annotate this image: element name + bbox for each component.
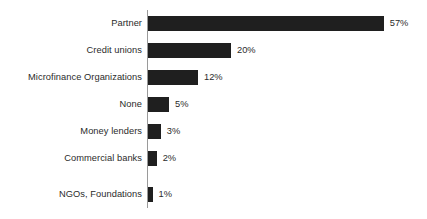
bar-row: None 5%: [0, 96, 427, 112]
bar[interactable]: [148, 151, 156, 166]
bar-value-label: 5%: [175, 99, 188, 110]
bar-row: Commercial banks 2%: [0, 150, 427, 166]
bar-row: Credit unions 20%: [0, 42, 427, 58]
category-label: Partner: [0, 18, 142, 29]
bar-value-label: 3%: [167, 126, 180, 137]
bar-value-label: 57%: [390, 18, 409, 29]
bar[interactable]: [148, 124, 160, 139]
bar-value-label: 1%: [159, 189, 172, 200]
category-label: None: [0, 99, 142, 110]
bar-row: Microfinance Organizations 12%: [0, 69, 427, 85]
bar-row: NGOs, Foundations 1%: [0, 186, 427, 202]
category-label: Credit unions: [0, 45, 142, 56]
category-label: Microfinance Organizations: [0, 72, 142, 83]
horizontal-bar-chart: Partner 57% Credit unions 20% Microfinan…: [0, 0, 427, 219]
bar[interactable]: [148, 43, 231, 58]
bar[interactable]: [148, 70, 198, 85]
category-label: Commercial banks: [0, 153, 142, 164]
bar-value-label: 20%: [237, 45, 256, 56]
bar-row: Money lenders 3%: [0, 123, 427, 139]
bar-value-label: 12%: [204, 72, 223, 83]
category-label: Money lenders: [0, 126, 142, 137]
bar[interactable]: [148, 187, 152, 202]
bar-row: Partner 57%: [0, 15, 427, 31]
bar[interactable]: [148, 16, 383, 31]
category-label: NGOs, Foundations: [0, 189, 142, 200]
bar-value-label: 2%: [163, 153, 176, 164]
bar[interactable]: [148, 97, 169, 112]
